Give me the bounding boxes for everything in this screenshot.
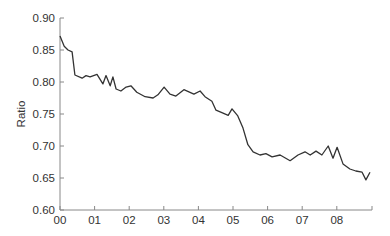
x-tick-label: 07 bbox=[296, 214, 309, 226]
y-tick-label: 0.60 bbox=[33, 204, 55, 216]
y-tick-label: 0.65 bbox=[33, 172, 55, 184]
series-line bbox=[60, 36, 370, 180]
x-tick-label: 00 bbox=[54, 214, 67, 226]
x-tick-label: 08 bbox=[330, 214, 343, 226]
x-tick-label: 06 bbox=[261, 214, 274, 226]
y-axis: 0.600.650.700.750.800.850.90 bbox=[33, 12, 64, 216]
line-chart: 0.600.650.700.750.800.850.90 00010203040… bbox=[0, 0, 390, 236]
y-tick-label: 0.75 bbox=[33, 108, 55, 120]
x-tick-label: 03 bbox=[157, 214, 170, 226]
y-tick-label: 0.85 bbox=[33, 44, 55, 56]
x-tick-label: 01 bbox=[88, 214, 101, 226]
x-tick-label: 02 bbox=[123, 214, 136, 226]
y-tick-label: 0.80 bbox=[33, 76, 55, 88]
data-series bbox=[60, 36, 370, 180]
y-tick-label: 0.90 bbox=[33, 12, 55, 24]
y-axis-title: Ratio bbox=[15, 101, 27, 128]
x-tick-label: 04 bbox=[192, 214, 205, 226]
x-tick-label: 05 bbox=[227, 214, 240, 226]
x-axis: 000102030405060708 bbox=[54, 206, 372, 226]
y-tick-label: 0.70 bbox=[33, 140, 55, 152]
